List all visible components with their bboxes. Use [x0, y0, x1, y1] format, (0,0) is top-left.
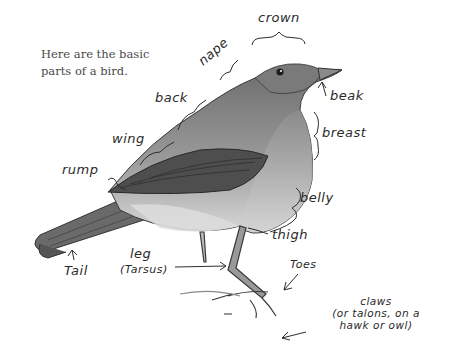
- claws-line-1: claws: [316, 295, 436, 307]
- beak-shape: [318, 68, 342, 80]
- label-claws: claws (or talons, on a hawk or owl): [316, 295, 436, 331]
- label-tail: Tail: [64, 263, 88, 278]
- intro-text: Here are the basic parts of a bird.: [41, 46, 161, 80]
- claws-arrow: [282, 332, 306, 340]
- beak-arrow: [318, 82, 326, 96]
- label-tarsus: (Tarsus): [120, 263, 168, 276]
- label-leg: leg: [130, 246, 151, 261]
- label-belly: belly: [300, 190, 334, 205]
- bird-diagram: Here are the basic parts of a bird. crow…: [0, 0, 453, 363]
- legs-and-feet: [180, 226, 276, 318]
- eye: [276, 68, 283, 75]
- label-toes: Toes: [290, 258, 317, 271]
- label-rump: rump: [62, 162, 99, 177]
- crown-brace: [252, 32, 305, 45]
- tail-arrow: [68, 250, 77, 260]
- label-beak: beak: [330, 88, 364, 103]
- label-breast: breast: [322, 125, 366, 140]
- claws-line-3: hawk or owl): [316, 319, 436, 331]
- label-crown: crown: [258, 10, 300, 25]
- breast-brace: [314, 112, 319, 160]
- label-wing: wing: [112, 131, 145, 146]
- label-thigh: thigh: [272, 227, 308, 242]
- leg-arrow: [175, 262, 226, 270]
- label-back: back: [155, 90, 188, 105]
- toes-arrow: [284, 274, 298, 290]
- claws-line-2: (or talons, on a: [316, 307, 436, 319]
- nape-brace: [220, 60, 238, 80]
